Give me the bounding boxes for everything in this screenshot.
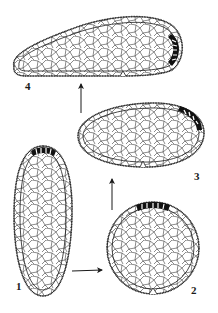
diagram-canvas — [0, 0, 218, 313]
stage-1-cell — [14, 146, 72, 296]
stage-label-1: 1 — [16, 281, 22, 292]
stage-label-4: 4 — [25, 81, 31, 92]
stage-4-cell — [14, 17, 183, 76]
stage-2-cell — [107, 202, 199, 294]
stage-label-3: 3 — [194, 171, 200, 182]
arrow-stage-1-to-2 — [72, 270, 102, 271]
stage-3-cell — [78, 103, 204, 167]
stage-label-2: 2 — [191, 285, 197, 296]
